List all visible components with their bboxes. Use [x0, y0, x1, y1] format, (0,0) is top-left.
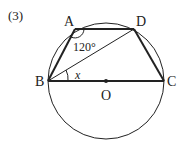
label-C: C	[167, 74, 176, 89]
segment-DC	[134, 29, 164, 81]
label-B: B	[35, 74, 44, 89]
angle-label-120: 120°	[73, 40, 96, 54]
angle-arc-x	[66, 70, 68, 81]
angle-label-x: x	[74, 68, 81, 82]
label-O: O	[101, 88, 111, 103]
label-A: A	[64, 14, 75, 29]
center-point-O	[104, 79, 108, 83]
label-D: D	[136, 14, 146, 29]
problem-number: (3)	[8, 8, 23, 23]
geometry-diagram: (3) A D B C O 120° x	[0, 0, 190, 148]
